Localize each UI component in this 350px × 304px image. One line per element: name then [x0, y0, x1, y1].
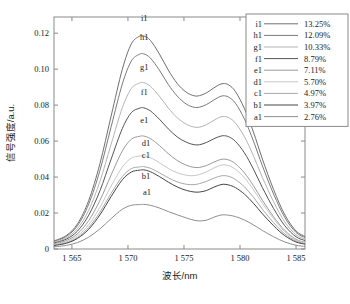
curve-label-c1: c1 [142, 150, 150, 160]
legend-value-a1: 2.76% [304, 112, 326, 122]
legend-label-a1: a1 [254, 112, 262, 122]
legend-label-i1: i1 [255, 19, 262, 29]
curve-label-h1: h1 [140, 32, 149, 42]
y-axis-tick-label: 0.06 [34, 136, 49, 146]
curve-label-f1: f1 [141, 87, 148, 97]
y-axis-tick-label: 0.02 [34, 208, 49, 218]
legend-label-b1: b1 [254, 100, 263, 110]
y-axis-title: 信号强度/a.u. [5, 104, 16, 163]
y-axis-tick-label: 0.04 [34, 172, 50, 182]
legend-label-c1: c1 [254, 88, 262, 98]
x-axis-tick-label: 1 565 [62, 253, 81, 263]
data-curve-e1 [54, 136, 305, 244]
legend-value-f1: 8.79% [304, 54, 326, 64]
data-curve-d1 [54, 156, 305, 245]
curve-label-g1: g1 [140, 62, 149, 72]
legend-value-h1: 12.09% [304, 30, 330, 40]
data-curve-f1 [54, 108, 305, 243]
x-axis-tick-label: 1 585 [286, 253, 305, 263]
curve-label-i1: i1 [141, 13, 148, 23]
y-axis-tick-label: 0.08 [34, 100, 49, 110]
legend-value-e1: 7.11% [304, 65, 326, 75]
curve-label-b1: b1 [142, 171, 151, 181]
legend-value-g1: 10.33% [304, 42, 330, 52]
spectrum-line-chart: 1 5651 5701 5751 5801 58500.020.040.060.… [0, 0, 350, 304]
legend-value-i1: 13.25% [304, 19, 330, 29]
x-axis-title: 波长/nm [162, 270, 198, 281]
legend-value-d1: 5.70% [304, 77, 326, 87]
curve-label-e1: e1 [140, 115, 148, 125]
chart-figure: 1 5651 5701 5751 5801 58500.020.040.060.… [0, 0, 350, 304]
legend-label-f1: f1 [255, 54, 262, 64]
curve-label-d1: d1 [142, 138, 151, 148]
x-axis-tick-label: 1 575 [174, 253, 193, 263]
y-axis-tick-label: 0.12 [34, 28, 49, 38]
curve-label-a1: a1 [143, 187, 151, 197]
x-axis-tick-label: 1 570 [118, 253, 137, 263]
legend-label-d1: d1 [254, 77, 263, 87]
legend-label-e1: e1 [254, 65, 262, 75]
legend-value-c1: 4.97% [304, 88, 326, 98]
y-axis-tick-label: 0.10 [34, 64, 49, 74]
legend-value-b1: 3.97% [304, 100, 326, 110]
legend-label-g1: g1 [254, 42, 263, 52]
y-axis-tick-label: 0 [45, 244, 49, 254]
legend-label-h1: h1 [254, 30, 263, 40]
x-axis-tick-label: 1 580 [230, 253, 249, 263]
